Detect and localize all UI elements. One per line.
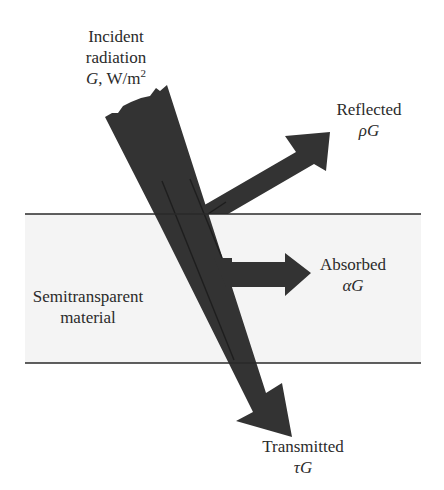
incident-label: Incident radiation G, W/m2 <box>66 26 166 89</box>
incident-line1: Incident <box>66 26 166 47</box>
absorbed-label: Absorbed αG <box>308 254 398 296</box>
absorbed-symbol: αG <box>308 275 398 296</box>
transmitted-label: Transmitted τG <box>248 436 358 478</box>
incident-line2: radiation <box>66 47 166 68</box>
absorbed-text: Absorbed <box>308 254 398 275</box>
incident-symbol: G <box>86 69 98 88</box>
reflected-label: Reflected ρG <box>324 99 414 141</box>
incident-line3: G, W/m2 <box>66 68 166 89</box>
reflected-text: Reflected <box>324 99 414 120</box>
material-line2: material <box>28 307 148 328</box>
material-line1: Semitransparent <box>28 286 148 307</box>
reflected-symbol: ρG <box>324 120 414 141</box>
incident-unit: , W/m <box>98 69 140 88</box>
reflected-arrow[interactable] <box>188 132 330 214</box>
material-label: Semitransparent material <box>28 286 148 328</box>
transmitted-text: Transmitted <box>248 436 358 457</box>
transmitted-symbol: τG <box>248 457 358 478</box>
incident-unit-exponent: 2 <box>140 67 146 79</box>
